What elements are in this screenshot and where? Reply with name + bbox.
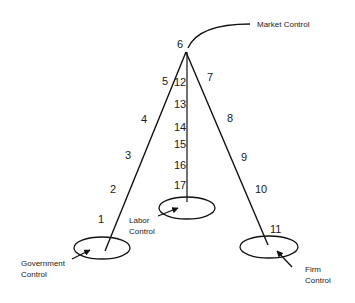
government-control-label-line2: Control (21, 270, 47, 279)
center-number-17: 17 (174, 179, 186, 191)
right-number-9: 9 (241, 151, 247, 163)
firm-control-label-line1: Firm (305, 265, 321, 274)
firm-arrow-icon (277, 251, 292, 267)
right-number-10: 10 (255, 183, 267, 195)
center-number-14: 14 (174, 121, 186, 133)
right-leg-line (186, 52, 268, 245)
market-control-connector (188, 24, 250, 48)
firm-control-label-line2: Control (305, 276, 331, 285)
government-ellipse (74, 237, 130, 259)
left-number-4: 4 (141, 113, 147, 125)
labor-control-label-line2: Control (129, 227, 155, 236)
left-number-3: 3 (125, 149, 131, 161)
right-number-11: 11 (270, 223, 281, 235)
labor-control-label-line1: Labor (129, 216, 150, 225)
right-number-7: 7 (207, 71, 213, 83)
center-number-13: 13 (174, 98, 186, 110)
market-control-label: Market Control (257, 20, 310, 29)
right-number-8: 8 (227, 112, 233, 124)
firm-ellipse (240, 236, 298, 258)
center-number-12: 12 (174, 76, 186, 88)
center-number-16: 16 (174, 159, 186, 171)
apex-number: 6 (177, 38, 183, 50)
center-number-15: 15 (174, 138, 186, 150)
left-number-5: 5 (162, 75, 168, 87)
control-triangle-diagram: Market Control 6 1 2 3 4 5 7 8 9 10 11 1… (0, 0, 355, 303)
left-number-2: 2 (110, 183, 116, 195)
government-control-label-line1: Government (21, 259, 66, 268)
left-number-1: 1 (98, 213, 104, 225)
